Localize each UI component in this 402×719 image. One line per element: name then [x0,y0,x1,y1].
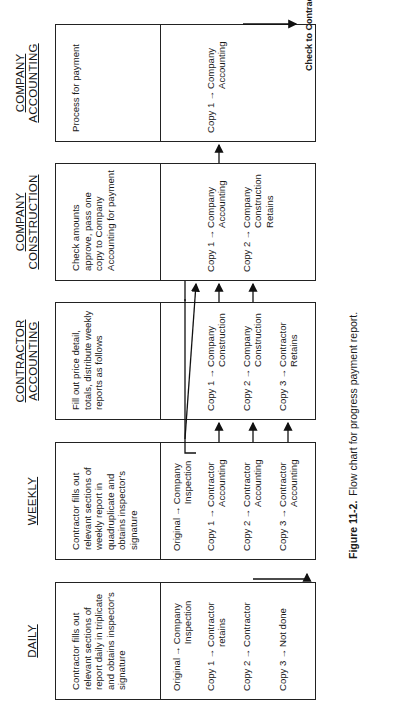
arrow-icon: → [241,509,252,519]
copy-row: Copy 1→Company Accounting [205,29,228,133]
box-company-construction: Check amounts approve, pass one copy to … [55,163,316,281]
check-to-contractor-label: Check to Contractor [304,0,314,71]
copy-row: Original→Company Inspection [171,587,194,691]
arrow-icon: → [205,369,216,379]
description-daily: Contractor fills out relevant sections o… [70,589,128,690]
copy-row: Copy 2→Company Construction Retains [241,168,275,272]
box-weekly: Contractor fills out relevant sections o… [55,442,316,560]
description-company-construction: Check amounts approve, pass one copy to … [70,170,116,271]
copy-row: Copy 1→Contractor Accounting [205,447,228,551]
header-daily: DAILY [26,582,39,700]
arrow-icon: → [277,649,288,659]
copies-weekly: Original→Company Inspection Copy 1→Contr… [161,443,315,559]
figure-caption-text: Flow chart for progress payment report. [347,312,359,496]
copy-row: Original→Company Inspection [171,447,194,551]
header-company-construction: COMPANYCONSTRUCTION [14,163,40,281]
header-company-accounting: COMPANYACCOUNTING [14,24,40,142]
copy-row: Copy 3→Not done [277,587,288,691]
description-weekly: Contractor fills out relevant sections o… [70,449,140,550]
copy-row: Copy 1→Contractor retains [205,587,228,691]
copy-row: Copy 1→Company Construction [205,307,228,411]
copy-row: Copy 3→Contractor Accounting [277,447,300,551]
copy-row: Copy 2→Company Construction [241,307,264,411]
arrow-icon: → [241,649,252,659]
arrow-icon: → [171,506,182,516]
description-contractor-accounting: Fill out price detail, totals, distribut… [70,309,105,410]
box-company-accounting: Process for payment Copy 1→Company Accou… [55,24,316,142]
copy-row: Copy 1→Company Accounting [205,168,228,272]
arrow-icon: → [277,509,288,519]
figure-page: DAILY WEEKLY CONTRACTORACCOUNTING COMPAN… [0,0,402,719]
copies-company-construction: Copy 1→Company Accounting Copy 2→Company… [161,164,315,280]
arrow-icon: → [205,91,216,101]
figure-caption: Figure 11-2.Flow chart for progress paym… [347,312,359,559]
copy-row: Copy 2→Contractor Accounting [241,447,264,551]
copy-row: Copy 2→Contractor [241,587,252,691]
box-daily: Contractor fills out relevant sections o… [55,582,316,700]
arrow-icon: → [241,230,252,240]
arrow-icon: → [241,369,252,379]
arrow-icon: → [205,649,216,659]
copy-row: Copy 3→Contractor Retains [277,307,300,411]
header-contractor-accounting: CONTRACTORACCOUNTING [14,302,40,420]
copies-company-accounting: Copy 1→Company Accounting [161,25,315,141]
header-weekly: WEEKLY [26,442,39,560]
arrow-icon: → [277,369,288,379]
figure-number: Figure 11-2. [347,501,359,559]
arrow-icon: → [171,646,182,656]
copies-daily: Original→Company Inspection Copy 1→Contr… [161,583,315,699]
arrow-icon: → [205,230,216,240]
arrow-icon: → [205,509,216,519]
copies-contractor-accounting: Copy 1→Company Construction Copy 2→Compa… [161,303,315,419]
box-contractor-accounting: Fill out price detail, totals, distribut… [55,302,316,420]
description-company-accounting: Process for payment [70,31,82,132]
